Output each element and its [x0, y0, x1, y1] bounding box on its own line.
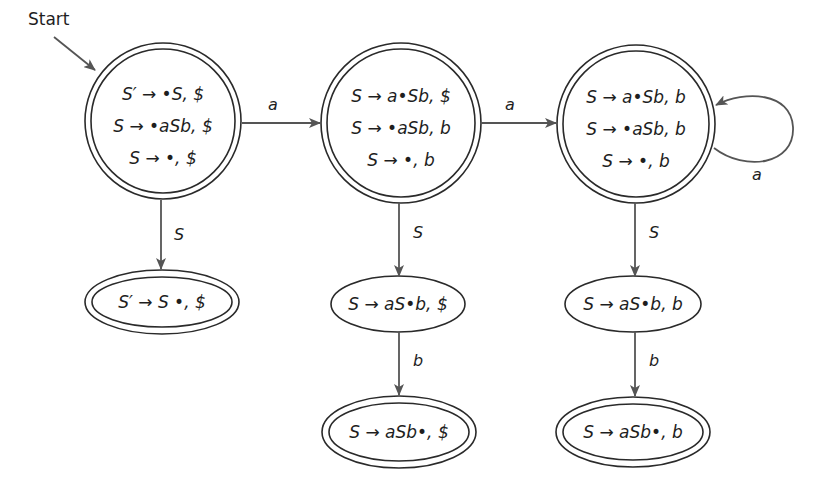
transition-I3-I4: b	[399, 332, 423, 395]
state-I0: S′ → •S, $ S → •aSb, $ S → •, $	[85, 43, 241, 199]
transition-I5-I6: S	[635, 203, 659, 276]
transition-I0-I1: S	[161, 200, 184, 269]
state-I0-item-2: S → •, $	[129, 148, 197, 168]
state-I7: S → aSb•, b	[556, 397, 710, 467]
state-I2-item-2: S → •, b	[367, 150, 434, 170]
state-I6: S → aS•b, b	[565, 276, 701, 332]
lr1-automaton-diagram: Start S′ → •S, $ S → •aSb, $ S → •, $ S …	[0, 0, 825, 490]
transition-I2-I3: S	[399, 203, 423, 276]
state-I7-item-0: S → aSb•, b	[583, 422, 682, 442]
state-I0-item-1: S → •aSb, $	[113, 116, 213, 136]
start-label: Start	[28, 9, 70, 29]
transition-I0-I2: a	[242, 95, 320, 123]
transition-label: S	[174, 225, 184, 244]
state-I5-item-2: S → •, b	[602, 151, 669, 171]
state-I2-item-1: S → •aSb, b	[351, 118, 450, 138]
transition-I6-I7: b	[635, 332, 659, 396]
transition-I5-self-loop: a	[714, 96, 793, 184]
transition-label: b	[413, 351, 423, 370]
state-I2-item-0: S → a•Sb, $	[351, 86, 451, 106]
state-I0-item-0: S′ → •S, $	[122, 84, 204, 104]
state-I3-item-0: S → aS•b, $	[348, 294, 448, 314]
state-I1: S′ → S •, $	[85, 270, 239, 334]
transition-label: b	[649, 351, 659, 370]
state-I2: S → a•Sb, $ S → •aSb, b S → •, b	[321, 43, 481, 203]
state-I1-item-0: S′ → S •, $	[118, 292, 206, 312]
state-I5-item-1: S → •aSb, b	[586, 119, 685, 139]
state-I4: S → aSb•, $	[322, 396, 476, 468]
state-I5: S → a•Sb, b S → •aSb, b S → •, b	[557, 45, 715, 203]
transition-I2-I5: a	[481, 95, 556, 123]
state-I3: S → aS•b, $	[331, 276, 465, 332]
start-arrow	[54, 37, 95, 70]
state-I5-item-0: S → a•Sb, b	[586, 87, 685, 107]
transition-label: S	[649, 223, 659, 242]
state-I6-item-0: S → aS•b, b	[583, 294, 682, 314]
transition-label: a	[268, 95, 278, 114]
start-marker: Start	[28, 9, 95, 70]
transition-label: a	[752, 165, 762, 184]
transition-label: S	[413, 223, 423, 242]
transition-label: a	[505, 95, 515, 114]
state-I4-item-0: S → aSb•, $	[349, 422, 449, 442]
